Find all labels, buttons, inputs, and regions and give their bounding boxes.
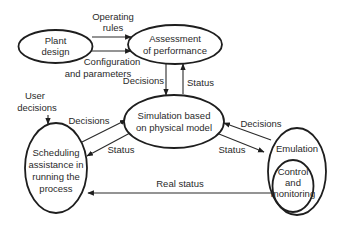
node-assessment-line-2: of performance <box>143 45 207 56</box>
node-simulation-line-2: on physical model <box>136 122 212 133</box>
node-scheduling-line-2: assistance in <box>29 159 84 170</box>
node-plant-design-line-1: Plant <box>45 35 67 46</box>
diagram-canvas: Plant design Assessment of performance S… <box>0 0 344 230</box>
label-sched-to-sim-decisions: Decisions <box>68 115 109 126</box>
label-sim-to-emu-status: Status <box>219 144 246 155</box>
node-control: Control and monitoring <box>271 160 315 212</box>
node-assessment: Assessment of performance <box>128 25 222 64</box>
node-control-line-2: and <box>285 177 301 188</box>
label-real-status: Real status <box>156 178 204 189</box>
node-assessment-line-1: Assessment <box>149 33 201 44</box>
label-configuration-1: Configuration <box>84 56 141 67</box>
label-operating-rules-2: rules <box>103 22 124 33</box>
label-user-decisions-1: User <box>25 90 45 101</box>
label-operating-rules-1: Operating <box>92 11 134 22</box>
label-sim-to-sched-status: Status <box>108 144 135 155</box>
label-assess-to-sim-decisions: Decisions <box>123 75 164 86</box>
node-emulation-label: Emulation <box>276 143 318 154</box>
node-scheduling-line-3: running the <box>32 171 80 182</box>
label-configuration-2: and parameters <box>65 68 132 79</box>
node-scheduling-line-4: process <box>39 183 73 194</box>
node-scheduling-line-1: Scheduling <box>32 147 79 158</box>
label-emu-to-sim-decisions: Decisions <box>240 118 281 129</box>
node-plant-design-line-2: design <box>42 46 70 57</box>
label-sim-to-assess-status: Status <box>187 77 214 88</box>
node-control-line-1: Control <box>278 166 309 177</box>
node-simulation: Simulation based on physical model <box>124 95 224 148</box>
node-scheduling: Scheduling assistance in running the pro… <box>25 123 87 213</box>
node-control-line-3: monitoring <box>271 188 315 199</box>
node-plant-design: Plant design <box>19 30 93 63</box>
node-simulation-line-1: Simulation based <box>138 110 211 121</box>
label-user-decisions-2: decisions <box>17 102 57 113</box>
